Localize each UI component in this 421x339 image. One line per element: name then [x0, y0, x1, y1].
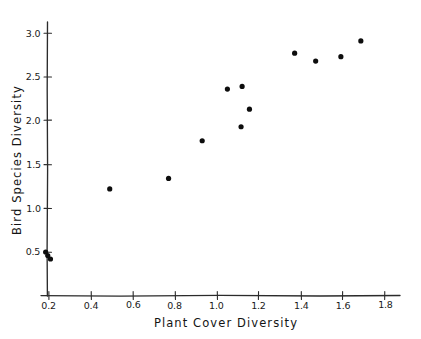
x-tick-label: 0.8	[167, 300, 182, 311]
scatter-plot-figure: 0.20.40.60.81.01.21.41.61.8 0.51.01.52.0…	[0, 0, 421, 339]
data-point	[107, 186, 112, 191]
x-tick-label: 0.4	[84, 300, 99, 311]
data-point	[238, 124, 243, 129]
y-axis-tick-labels: 0.51.01.52.02.53.0	[26, 28, 41, 257]
y-tick-label: 3.0	[26, 28, 41, 39]
data-point	[48, 256, 53, 261]
x-tick-label: 1.2	[251, 300, 266, 311]
y-tick-label: 0.5	[26, 246, 41, 257]
x-tick-label: 1.6	[336, 300, 351, 311]
data-point	[338, 54, 343, 59]
plot-canvas: 0.20.40.60.81.01.21.41.61.8 0.51.01.52.0…	[0, 0, 421, 339]
x-tick-label: 1.4	[294, 300, 309, 311]
data-point	[313, 58, 318, 63]
x-axis-tick-labels: 0.20.40.60.81.01.21.41.61.8	[41, 299, 393, 311]
data-point-series	[43, 38, 363, 261]
data-point	[225, 86, 230, 91]
y-tick-label: 1.5	[26, 159, 41, 170]
data-point	[358, 38, 363, 43]
data-point	[292, 51, 297, 56]
x-tick-label: 1.0	[209, 300, 224, 311]
x-axis-line	[41, 295, 400, 296]
data-point	[247, 107, 252, 112]
y-axis-title: Bird Species Diversity	[10, 85, 24, 235]
data-point	[166, 176, 171, 181]
x-axis-title: Plant Cover Diversity	[154, 316, 298, 330]
y-tick-label: 2.0	[26, 115, 41, 126]
x-tick-label: 1.8	[378, 299, 393, 310]
x-tick-label: 0.6	[126, 299, 141, 310]
data-point	[200, 138, 205, 143]
x-tick-label: 0.2	[41, 300, 56, 311]
y-tick-label: 1.0	[26, 203, 41, 214]
data-point	[240, 84, 245, 89]
y-tick-label: 2.5	[26, 71, 41, 82]
